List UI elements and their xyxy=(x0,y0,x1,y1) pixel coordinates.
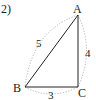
side-ab-length-label: 5 xyxy=(36,37,42,49)
problem-number-label: 2) xyxy=(1,2,11,16)
side-ac-length-label: 4 xyxy=(85,47,91,59)
triangle-diagram: 2) A B C 5 4 3 xyxy=(0,0,96,100)
side-bc-length-label: 3 xyxy=(48,89,54,100)
side-ab xyxy=(25,15,78,87)
vertex-a-label: A xyxy=(73,2,82,16)
vertex-b-label: B xyxy=(13,81,21,95)
vertex-c-label: C xyxy=(78,86,86,100)
